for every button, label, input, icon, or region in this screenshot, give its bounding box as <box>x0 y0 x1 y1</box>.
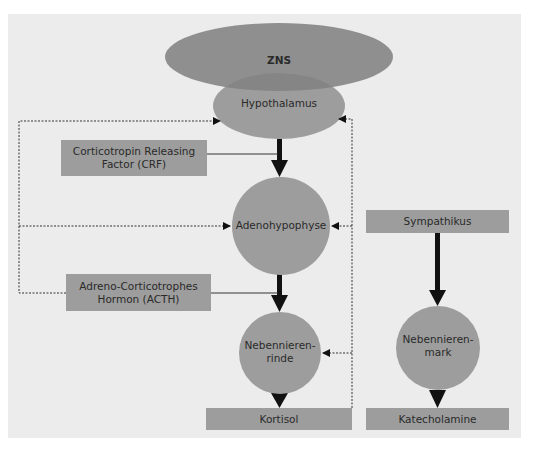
hypothalamus-label: Hypothalamus <box>229 97 329 110</box>
sympathikus-box: Sympathikus <box>366 210 509 233</box>
crf-box: Corticotropin Releasing Factor (CRF) <box>61 140 207 176</box>
nnr-line2: rinde <box>240 352 320 365</box>
nnm-line1: Nebennieren- <box>398 333 478 346</box>
nnr-line1: Nebennieren- <box>240 339 320 352</box>
adenohypophyse-label: Adenohypophyse <box>231 219 331 232</box>
nebennierenmark-label: Nebennieren- mark <box>398 333 478 359</box>
feedback-right <box>323 119 352 408</box>
acth-line1: Adreno-Corticotrophes <box>79 280 197 293</box>
crf-line2: Factor (CRF) <box>73 158 195 171</box>
nebennierenrinde-label: Nebennieren- rinde <box>240 339 320 365</box>
zns-label: ZNS <box>259 54 299 67</box>
katecholamine-box: Katecholamine <box>366 408 509 430</box>
kortisol-box: Kortisol <box>206 408 352 430</box>
crf-line1: Corticotropin Releasing <box>73 145 195 158</box>
acth-line2: Hormon (ACTH) <box>79 293 197 306</box>
nnm-line2: mark <box>398 346 478 359</box>
acth-box: Adreno-Corticotrophes Hormon (ACTH) <box>66 274 211 311</box>
